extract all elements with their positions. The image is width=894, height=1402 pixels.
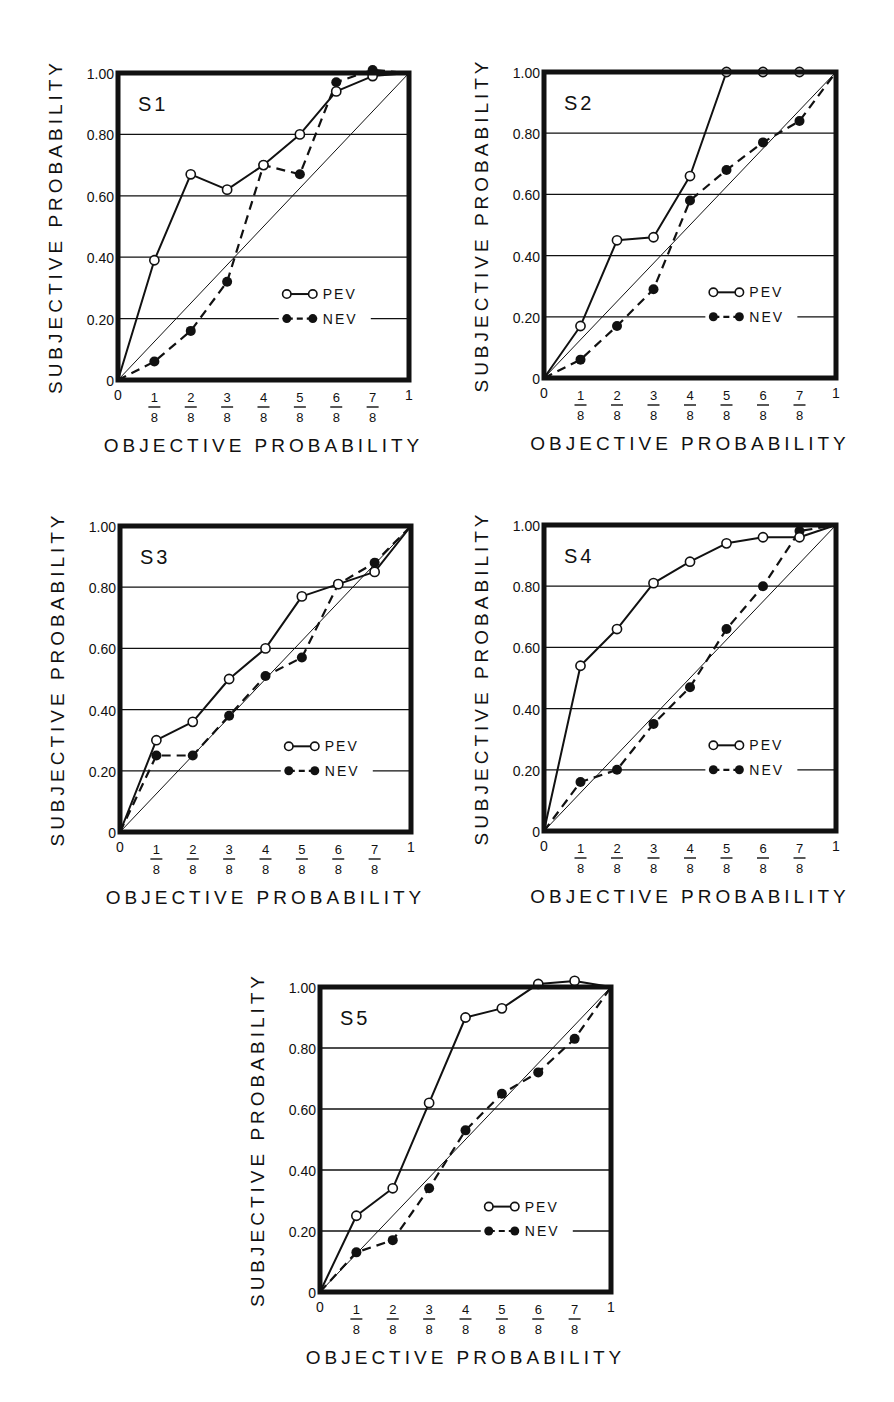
x-tick-label: 0 (114, 387, 122, 403)
x-tick-label: 68 (330, 390, 342, 425)
y-tick-label: 0.20 (513, 310, 540, 326)
legend-label-pev: PEV (525, 1199, 559, 1215)
y-tick-label: 0.20 (513, 763, 540, 779)
x-tick-label: 58 (721, 388, 733, 423)
x-tick-label: 0 (116, 839, 124, 855)
svg-text:3: 3 (650, 841, 657, 856)
chart-svg: PEVNEVS400.200.400.600.801.0001828384858… (464, 505, 856, 921)
data-point-nev (533, 1067, 543, 1077)
svg-text:8: 8 (371, 862, 378, 877)
x-tick-label: 0 (540, 838, 548, 854)
svg-text:5: 5 (498, 1302, 505, 1317)
svg-text:8: 8 (796, 861, 803, 876)
svg-text:7: 7 (796, 841, 803, 856)
y-tick-label: 0.40 (87, 250, 114, 266)
y-tick-label: 0.80 (87, 127, 114, 143)
y-tick-label: 0.40 (513, 702, 540, 718)
svg-text:1: 1 (153, 842, 160, 857)
x-tick-label: 58 (496, 1302, 508, 1337)
data-point-pev (259, 161, 268, 170)
x-tick-label: 78 (367, 390, 379, 425)
svg-text:3: 3 (224, 390, 231, 405)
x-tick-label: 78 (794, 388, 806, 423)
x-tick-label: 48 (258, 390, 270, 425)
chart-panel-s1: PEVNEVS100.200.400.600.801.0001828384858… (38, 53, 429, 474)
legend-label-nev: NEV (323, 311, 358, 327)
svg-text:8: 8 (498, 1322, 505, 1337)
data-point-pev (152, 736, 161, 745)
data-point-pev (332, 87, 341, 96)
data-point-nev (497, 1089, 507, 1099)
chart-panel-s4: PEVNEVS400.200.400.600.801.0001828384858… (464, 505, 856, 925)
data-point-nev (649, 284, 659, 294)
svg-text:7: 7 (369, 390, 376, 405)
data-point-nev (758, 581, 768, 591)
svg-text:5: 5 (723, 388, 730, 403)
y-tick-label: 0.60 (513, 187, 540, 203)
svg-text:7: 7 (796, 388, 803, 403)
y-axis-label: SUBJECTIVE PROBABILITY (47, 511, 68, 846)
svg-text:8: 8 (298, 862, 305, 877)
data-point-nev (795, 116, 805, 126)
svg-text:8: 8 (153, 862, 160, 877)
x-tick-label: 38 (648, 841, 660, 876)
svg-text:8: 8 (369, 410, 376, 425)
svg-text:8: 8 (151, 410, 158, 425)
y-tick-label: 0.20 (289, 1224, 316, 1240)
svg-text:8: 8 (226, 862, 233, 877)
x-tick-label: 38 (423, 1302, 435, 1337)
svg-text:4: 4 (462, 1302, 469, 1317)
x-axis-label: OBJECTIVE PROBABILITY (530, 433, 849, 454)
panel-title: S1 (138, 93, 168, 115)
y-tick-label: 0.20 (87, 312, 114, 328)
y-tick-label: 0 (108, 825, 116, 841)
x-tick-label: 78 (569, 1302, 581, 1337)
data-point-pev (352, 1211, 361, 1220)
svg-text:8: 8 (613, 861, 620, 876)
data-point-nev (576, 355, 586, 365)
svg-text:3: 3 (650, 388, 657, 403)
chart-svg: PEVNEVS500.200.400.600.801.0001828384858… (240, 967, 631, 1382)
x-tick-label: 18 (148, 390, 160, 425)
legend-label-nev: NEV (749, 762, 784, 778)
diagonal-reference-line (118, 73, 409, 380)
svg-text:4: 4 (260, 390, 267, 405)
data-point-nev (331, 77, 341, 87)
data-point-pev (649, 579, 658, 588)
svg-text:8: 8 (426, 1322, 433, 1337)
svg-text:4: 4 (686, 841, 693, 856)
x-tick-label: 28 (187, 842, 199, 877)
svg-text:8: 8 (723, 408, 730, 423)
svg-text:2: 2 (613, 388, 620, 403)
legend-label-pev: PEV (323, 286, 357, 302)
x-tick-label: 68 (332, 842, 344, 877)
x-tick-label: 18 (150, 842, 162, 877)
svg-text:1: 1 (607, 1299, 615, 1315)
data-point-pev (685, 557, 694, 566)
data-point-pev (570, 976, 579, 985)
svg-text:1: 1 (832, 838, 840, 854)
svg-text:1: 1 (577, 841, 584, 856)
y-tick-label: 1.00 (513, 518, 540, 534)
x-tick-label: 48 (684, 841, 696, 876)
data-point-nev (188, 751, 198, 761)
legend-label-pev: PEV (749, 737, 783, 753)
data-point-pev (150, 256, 159, 265)
y-axis-label: SUBJECTIVE PROBABILITY (247, 972, 268, 1307)
svg-text:4: 4 (686, 388, 693, 403)
x-tick-label: 28 (611, 388, 623, 423)
svg-text:5: 5 (298, 842, 305, 857)
data-point-nev (612, 321, 622, 331)
legend-label-pev: PEV (749, 284, 783, 300)
svg-text:8: 8 (262, 862, 269, 877)
data-point-nev (149, 357, 159, 367)
x-axis-label: OBJECTIVE PROBABILITY (530, 886, 849, 907)
svg-text:0: 0 (116, 839, 124, 855)
y-tick-label: 0.60 (513, 640, 540, 656)
data-point-nev (649, 719, 659, 729)
chart-panel-s3: PEVNEVS300.200.400.600.801.0001828384858… (40, 506, 431, 926)
data-point-nev (461, 1125, 471, 1135)
data-point-nev (151, 751, 161, 761)
y-tick-label: 0.80 (289, 1041, 316, 1057)
svg-text:8: 8 (189, 862, 196, 877)
